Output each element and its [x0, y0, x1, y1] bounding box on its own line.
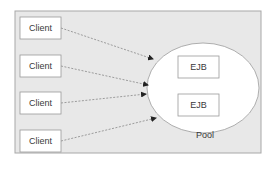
ejb-box: EJB — [178, 56, 219, 78]
ejb-label: EJB — [190, 62, 207, 72]
ejb-label: EJB — [190, 100, 207, 110]
client-box: Client — [20, 92, 61, 114]
ejb-box: EJB — [178, 94, 219, 116]
client-box: Client — [20, 130, 61, 152]
ejb-pool-diagram: Client Client Client Client EJB EJB Pool — [0, 0, 270, 169]
client-box: Client — [20, 55, 61, 77]
client-label: Client — [29, 136, 53, 146]
client-box: Client — [20, 17, 61, 39]
client-label: Client — [29, 98, 53, 108]
pool-label: Pool — [196, 130, 214, 140]
client-label: Client — [29, 61, 53, 71]
client-label: Client — [29, 23, 53, 33]
